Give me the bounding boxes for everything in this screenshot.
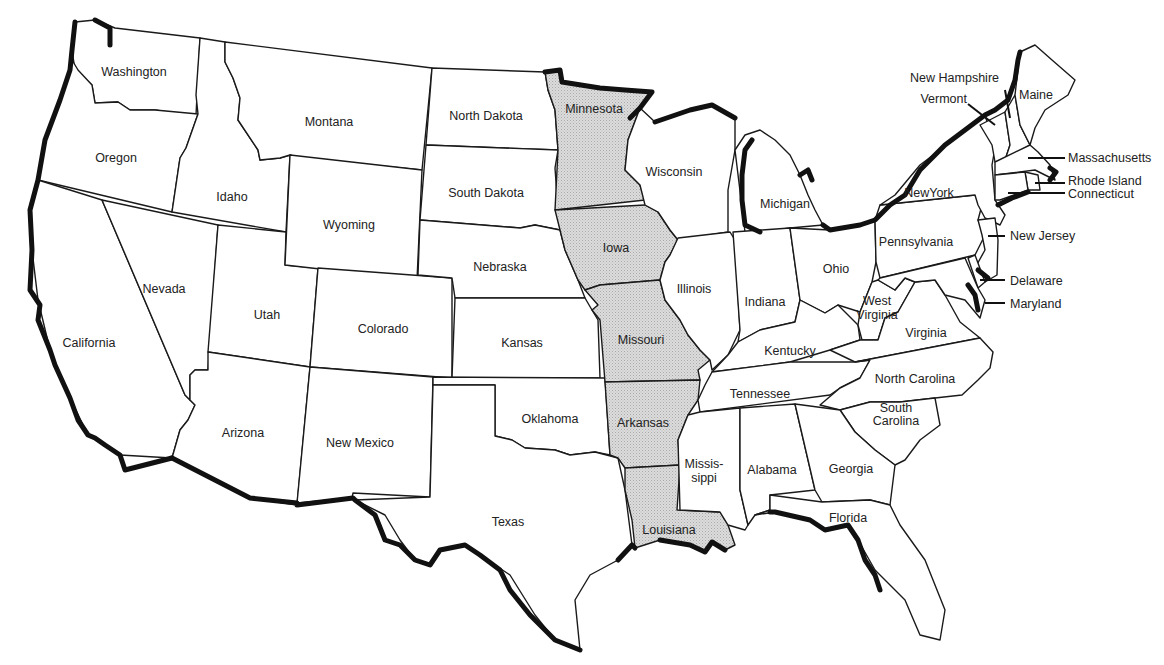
label-nebraska: Nebraska <box>473 260 527 274</box>
label-new-york: NewYork <box>904 186 954 200</box>
label-rhode-island: Rhode Island <box>1068 174 1142 188</box>
label-idaho: Idaho <box>216 190 247 204</box>
label-virginia: Virginia <box>905 326 947 340</box>
label-massachusetts: Massachusetts <box>1068 151 1151 165</box>
label-iowa: Iowa <box>603 241 629 255</box>
label-alabama: Alabama <box>747 463 796 477</box>
label-south-dakota: South Dakota <box>448 186 524 200</box>
label-north-carolina: North Carolina <box>875 372 956 386</box>
label-louisiana: Louisiana <box>642 523 696 537</box>
label-nevada: Nevada <box>142 282 185 296</box>
label-south-carolina-1: South <box>880 401 913 415</box>
label-michigan: Michigan <box>760 197 810 211</box>
label-indiana: Indiana <box>744 295 785 309</box>
label-new-jersey: New Jersey <box>1010 229 1076 243</box>
label-mississippi-2: sippi <box>691 471 717 485</box>
label-oklahoma: Oklahoma <box>522 412 579 426</box>
us-map: Washington Oregon Idaho Montana Wyoming … <box>0 0 1164 665</box>
label-wisconsin: Wisconsin <box>646 165 703 179</box>
label-vermont: Vermont <box>920 92 967 106</box>
label-washington: Washington <box>101 65 167 79</box>
label-west-virginia-1: West <box>863 294 892 308</box>
label-florida: Florida <box>829 511 867 525</box>
label-south-carolina-2: Carolina <box>873 414 920 428</box>
label-montana: Montana <box>305 115 354 129</box>
label-pennsylvania: Pennsylvania <box>879 235 953 249</box>
label-arkansas: Arkansas <box>617 416 669 430</box>
label-missouri: Missouri <box>618 333 665 347</box>
label-connecticut: Connecticut <box>1068 187 1135 201</box>
label-tennessee: Tennessee <box>730 387 791 401</box>
label-north-dakota: North Dakota <box>449 109 523 123</box>
label-delaware: Delaware <box>1010 274 1063 288</box>
state-new-mexico[interactable] <box>297 367 433 503</box>
label-new-mexico: New Mexico <box>326 436 394 450</box>
label-west-virginia-2: Virginia <box>856 308 898 322</box>
label-texas: Texas <box>492 515 525 529</box>
label-arizona: Arizona <box>222 426 264 440</box>
label-kansas: Kansas <box>501 336 543 350</box>
label-kentucky: Kentucky <box>764 344 816 358</box>
label-wyoming: Wyoming <box>323 218 375 232</box>
label-california: California <box>63 336 116 350</box>
label-minnesota: Minnesota <box>565 102 623 116</box>
label-maine: Maine <box>1019 88 1053 102</box>
label-oregon: Oregon <box>95 151 137 165</box>
label-new-hampshire: New Hampshire <box>910 71 999 85</box>
label-ohio: Ohio <box>823 262 849 276</box>
label-utah: Utah <box>254 308 280 322</box>
label-maryland: Maryland <box>1010 297 1061 311</box>
label-mississippi-1: Missis- <box>685 457 724 471</box>
label-illinois: Illinois <box>677 282 712 296</box>
label-georgia: Georgia <box>829 462 874 476</box>
label-colorado: Colorado <box>358 322 409 336</box>
